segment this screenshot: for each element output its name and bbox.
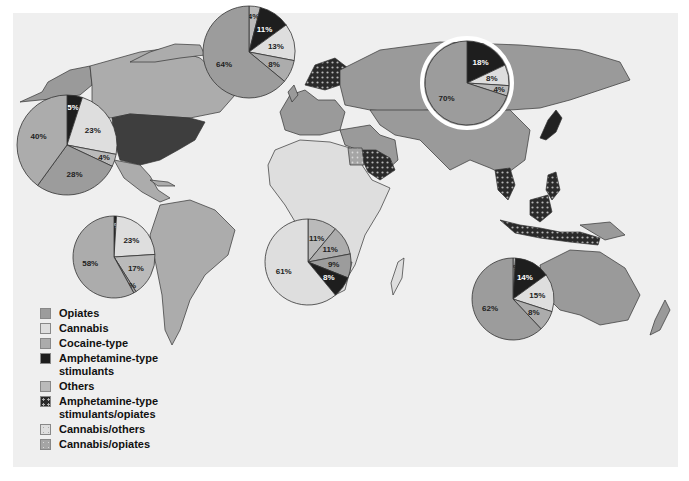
pie-asia: 18%8%4%70%: [422, 38, 512, 128]
region-new-zealand: [650, 300, 670, 335]
legend-label: Others: [59, 380, 94, 393]
region-egypt: [348, 148, 364, 165]
pie-slice-label: 8%: [486, 74, 498, 83]
pie-africa: 11%11%9%8%61%: [265, 219, 351, 305]
pie-slice-label: 58%: [82, 259, 98, 268]
pie-slice-label: 11%: [322, 245, 338, 254]
legend-label: Cannabis/opiates: [59, 438, 150, 451]
pie-slice-label: 8%: [528, 308, 540, 317]
pie-slice-label: 62%: [482, 304, 498, 313]
legend-label: Amphetamine-typestimulants/opiates: [59, 395, 158, 421]
legend-label-line2: stimulants: [59, 365, 114, 377]
legend-item-cannabis: Cannabis: [40, 322, 210, 337]
legend-item-amphetamine-opiates: Amphetamine-typestimulants/opiates: [40, 395, 210, 423]
swatch-opiates: [40, 308, 51, 319]
region-japan: [540, 110, 562, 140]
pie-slice-label: 15%: [529, 291, 545, 300]
pie-slice-label: 11%: [257, 25, 273, 34]
swatch-cannabis-others: [40, 424, 51, 435]
legend-label: Cocaine-type: [59, 337, 128, 350]
legend-label-line2: stimulants/opiates: [59, 408, 156, 420]
pie-slice-label: 8%: [268, 60, 280, 69]
region-usa: [112, 114, 205, 165]
legend-item-cannabis-opiates: Cannabis/opiates: [40, 438, 210, 453]
pie-north-america: 5%23%4%28%40%: [17, 95, 117, 195]
pie-slice-label: 23%: [85, 126, 101, 135]
pie-slice-label: 13%: [268, 42, 284, 51]
pie-slice-label: 14%: [517, 273, 533, 282]
pie-slice-label: 40%: [30, 132, 46, 141]
legend-label: Opiates: [59, 307, 99, 320]
swatch-amphetamine-opiates: [40, 396, 51, 407]
pie-slice-label: 70%: [439, 94, 455, 103]
legend-item-cannabis-others: Cannabis/others: [40, 423, 210, 438]
pie-slice-label: 64%: [216, 60, 232, 69]
pie-slice-label: 9%: [328, 260, 340, 269]
region-indonesia: [500, 220, 600, 245]
pie-slice-label: 18%: [472, 58, 488, 67]
pie-south-america: 1%23%17%1%58%: [73, 216, 155, 298]
swatch-cannabis: [40, 323, 51, 334]
pie-oceania: 1%14%15%8%62%: [472, 258, 554, 340]
region-madagascar: [391, 258, 404, 295]
swatch-amphetamine: [40, 353, 51, 364]
pie-slice-label: 61%: [276, 267, 292, 276]
legend-label: Cannabis: [59, 322, 109, 335]
region-borneo: [530, 195, 552, 222]
pie-slice-label: 28%: [66, 170, 82, 179]
pie-slice-label: 23%: [123, 236, 139, 245]
legend-item-others: Others: [40, 380, 210, 395]
legend-label: Amphetamine-typestimulants: [59, 352, 158, 378]
pie-slice-label: 8%: [323, 273, 335, 282]
legend-item-cocaine: Cocaine-type: [40, 337, 210, 352]
legend-item-amphetamine: Amphetamine-typestimulants: [40, 352, 210, 380]
swatch-cannabis-opiates: [40, 439, 51, 450]
region-thailand: [495, 168, 515, 200]
pie-europe: 4%11%13%8%64%: [203, 6, 295, 98]
swatch-cocaine: [40, 338, 51, 349]
legend-label: Cannabis/others: [59, 423, 145, 436]
pie-slice-label: 17%: [128, 264, 144, 273]
swatch-others: [40, 381, 51, 392]
legend-item-opiates: Opiates: [40, 307, 210, 322]
region-australia: [540, 250, 640, 325]
legend: Opiates Cannabis Cocaine-type Amphetamin…: [40, 307, 210, 453]
legend-label-line1: Amphetamine-type: [59, 352, 158, 364]
legend-label-line1: Amphetamine-type: [59, 395, 158, 407]
pie-slice-label: 5%: [67, 103, 79, 112]
pie-slice-label: 11%: [309, 234, 325, 243]
